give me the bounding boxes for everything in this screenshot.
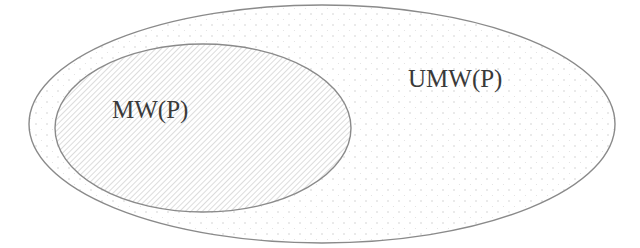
outer-set-label: UMW(P) <box>408 65 502 93</box>
inner-ellipse <box>55 44 351 212</box>
inner-set-label: MW(P) <box>112 96 188 124</box>
inner-set-mw <box>55 44 351 212</box>
nested-set-diagram: MW(P) UMW(P) <box>0 0 640 248</box>
